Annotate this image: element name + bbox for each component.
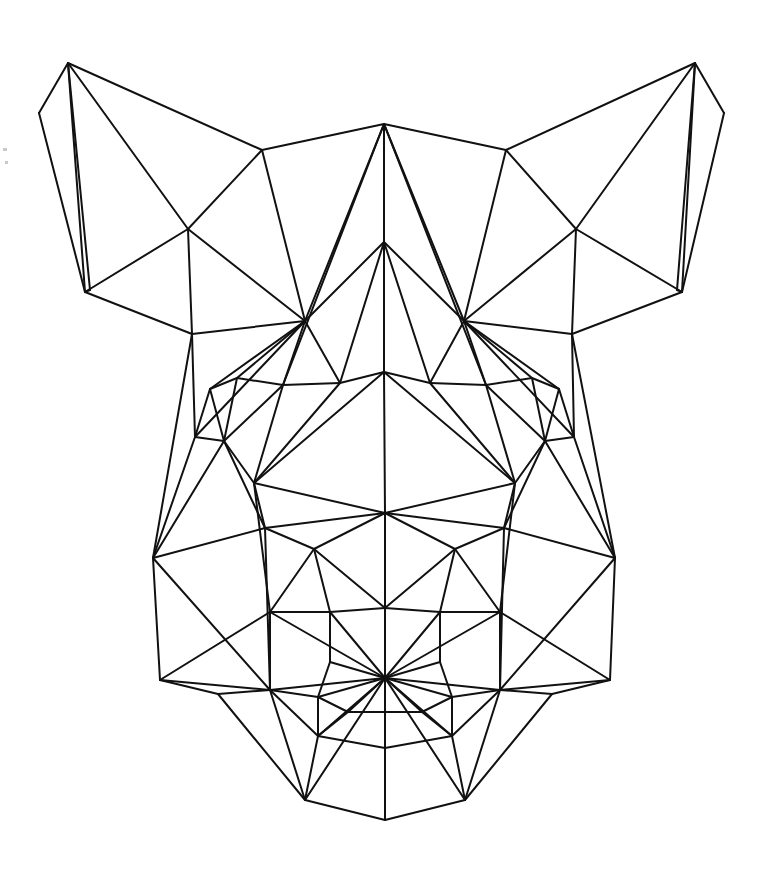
edge-muzzle_r_hub-to-nose_hub: [385, 678, 500, 690]
edge-chin_r-to-chin_bottom: [385, 800, 465, 820]
edge-eye_l_low-to-cheek_l_mid: [224, 441, 254, 483]
edge-eye_r_top-to-eye_r_in: [486, 378, 532, 385]
edge-ear_l_tip-to-crown_l: [68, 63, 262, 150]
edge-ear_r_bottom-to-ear_r_inner: [576, 229, 682, 292]
edge-ear_l_tip-to-ear_l_inner: [68, 63, 188, 229]
edge-snout_l-to-nose_hub: [330, 662, 385, 678]
edge-snout_r-to-nose_r_wing: [440, 662, 452, 697]
edge-crown_top-to-eye_l_in: [283, 124, 384, 385]
edge-snout_r_up-to-nose_hub: [385, 612, 440, 678]
edge-jaw_r_corner-to-muzzle_r_up: [504, 528, 615, 558]
edge-lip_r-to-chin_center: [385, 736, 452, 748]
edge-eye_r_in-to-brow_r_in: [430, 383, 486, 385]
edge-brow_r_in-to-cheek_r_mid: [430, 383, 515, 483]
edge-jaw_r_corner-to-jaw_r_low: [610, 558, 615, 680]
edge-cheek_r_mid-to-face_center: [385, 483, 515, 513]
edge-cheek_r_low-to-muzzle_r: [455, 549, 500, 612]
edge-ear_r_inner-to-brow_r_hub: [464, 229, 576, 321]
edge-cheek_l_up-to-eye_l_low: [195, 437, 224, 441]
edge-ear_r_tip-to-ear_r_out_low: [695, 63, 724, 113]
edge-ear_l_tip-to-ear_l_out_low: [39, 63, 68, 113]
edge-muzzle_r_up-to-face_center: [385, 513, 504, 528]
edge-jaw_r_corner-to-muzzle_r_hub: [500, 558, 615, 690]
edge-bridge_mid-to-cheek_l_mid: [254, 372, 384, 483]
edge-cheek_r_mid-to-muzzle_r: [500, 483, 515, 612]
edge-crown_top-to-eye_r_in: [384, 124, 486, 385]
edge-muzzle_r_up-to-cheek_r_low: [455, 528, 504, 549]
paper-speck-1: [3, 148, 7, 151]
edge-bridge_mid-to-cheek_r_mid: [384, 372, 515, 483]
artboard: [0, 0, 757, 884]
edge-cheek_l_low-to-muzzle_l: [270, 549, 314, 612]
edge-ear_l_tip-to-ear_l_fold: [68, 63, 90, 290]
edge-bridge_top-to-brow_r_in: [384, 242, 430, 383]
polygon-edges: [39, 63, 724, 820]
edge-muzzle_l-to-jaw_l_low: [160, 612, 270, 680]
edge-snout_l_up-to-nose_hub: [330, 612, 385, 678]
edge-ear_r_inner-to-crown_r: [506, 150, 576, 229]
edge-ear_l_base_in-to-cheek_l_up: [192, 334, 195, 437]
edge-nose_top-to-snout_l_up: [330, 608, 385, 612]
edge-cheek_r_up-to-eye_r_low: [545, 437, 574, 441]
edge-nose_top-to-snout_r_up: [385, 608, 440, 612]
edge-cheek_l_low-to-nose_top: [314, 549, 385, 608]
edge-ear_r_tip-to-ear_r_fold: [677, 63, 695, 290]
edge-muzzle_l_hub-to-nose_hub: [270, 678, 385, 690]
edge-brow_l_in-to-cheek_l_mid: [254, 383, 340, 483]
edge-ear_l_bottom-to-ear_l_base_in: [85, 292, 192, 334]
edge-mouth_l-to-lip_l: [318, 712, 348, 736]
edge-snout_l-to-nose_l_wing: [318, 662, 330, 697]
edge-crown_r-to-brow_r_hub: [464, 150, 506, 321]
edge-eye_l_in-to-brow_l_in: [283, 383, 340, 385]
edge-brow_r_hub-to-brow_r_in: [430, 321, 464, 383]
edge-ear_r_base_in-to-jaw_r_corner: [572, 334, 615, 558]
edge-nose_l_wing-to-mouth_l: [318, 697, 348, 712]
edge-ear_l_inner-to-ear_l_base_in: [188, 229, 192, 334]
edge-ear_r_inner-to-ear_r_base_in: [572, 229, 576, 334]
edge-muzzle_l_up-to-face_center: [265, 513, 385, 528]
geometric-animal-head-lineart: [0, 0, 757, 884]
edge-ear_r_base_in-to-cheek_r_up: [572, 334, 574, 437]
edge-ear_r_tip-to-ear_r_inner: [576, 63, 695, 229]
edge-cheek_l_low-to-snout_l_up: [314, 549, 330, 612]
edge-muzzle_r_hub-to-jaw_r_in: [500, 690, 552, 694]
edge-eye_r_low-to-cheek_r_mid: [515, 441, 545, 483]
edge-jaw_l_corner-to-muzzle_l_up: [153, 528, 265, 558]
paper-speck-2: [5, 161, 8, 164]
edge-jaw_l_corner-to-jaw_l_low: [153, 558, 160, 680]
edge-muzzle_l_up-to-cheek_l_low: [265, 528, 314, 549]
edge-eye_l_top-to-eye_l_in: [237, 378, 283, 385]
edge-eye_l_out-to-eye_l_low: [210, 389, 224, 441]
edge-ear_l_bottom-to-ear_l_inner: [85, 229, 188, 292]
edge-cheek_r_low-to-nose_top: [385, 549, 455, 608]
edge-nose_r_wing-to-mouth_r: [422, 697, 452, 712]
edge-muzzle_l_hub-to-jaw_l_in: [218, 690, 270, 694]
edge-cheek_l_mid-to-face_center: [254, 483, 385, 513]
edge-cheek_l_mid-to-muzzle_l: [254, 483, 270, 612]
edge-snout_r-to-nose_hub: [385, 662, 440, 678]
edge-ear_l_inner-to-crown_l: [188, 150, 262, 229]
edge-mouth_r-to-lip_r: [422, 712, 452, 736]
edge-crown_l-to-brow_l_hub: [262, 150, 305, 321]
edge-ear_r_bottom-to-ear_r_base_in: [572, 292, 682, 334]
paper-specks: [3, 148, 8, 164]
edge-crown_r-to-crown_top: [384, 124, 506, 150]
edge-eye_r_out-to-eye_r_low: [545, 389, 559, 441]
edge-chin_l-to-chin_bottom: [305, 800, 385, 820]
edge-crown_l-to-crown_top: [262, 124, 384, 150]
edge-bridge_mid-to-face_center: [384, 372, 385, 513]
edge-brow_l_hub-to-brow_l_in: [305, 321, 340, 383]
edge-lip_l-to-chin_center: [318, 736, 385, 748]
edge-ear_r_tip-to-crown_r: [506, 63, 695, 150]
edge-ear_l_inner-to-brow_l_hub: [188, 229, 305, 321]
